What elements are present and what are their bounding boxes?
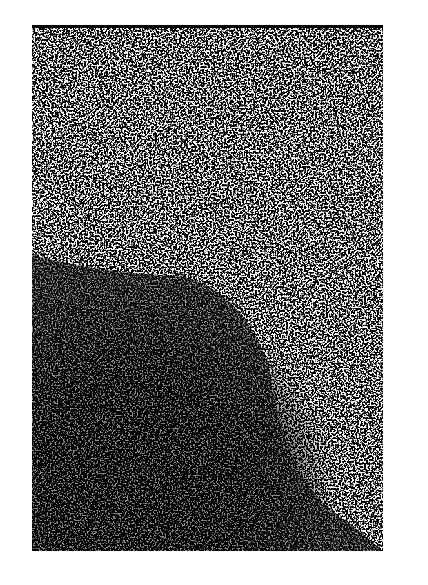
halftone-image bbox=[32, 25, 383, 551]
noise-texture bbox=[32, 25, 383, 551]
